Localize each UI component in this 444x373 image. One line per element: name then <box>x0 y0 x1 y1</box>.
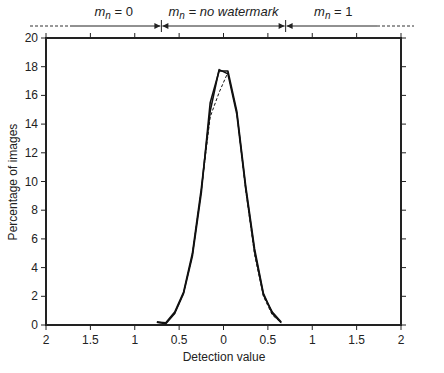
y-axis-title: Percentage of images <box>6 124 20 241</box>
y-tick-label: 8 <box>31 203 38 217</box>
x-tick-label: 1 <box>131 333 138 347</box>
y-tick-label: 18 <box>25 60 39 74</box>
x-tick-label: 0.5 <box>171 333 188 347</box>
y-tick-label: 0 <box>31 318 38 332</box>
region-label: mn = no watermark <box>169 4 280 21</box>
region-annotations: mn = 0mn = no watermarkmn = 1 <box>30 4 414 32</box>
arrowhead-icon <box>154 23 160 29</box>
x-axis-title: Detection value <box>183 350 266 364</box>
y-axis: 02468101214161820 <box>25 31 406 332</box>
region-label: mn = 1 <box>314 4 352 21</box>
y-tick-label: 14 <box>25 117 39 131</box>
arrowhead-icon <box>162 23 168 29</box>
x-tick-label: 2 <box>398 333 405 347</box>
plot-border <box>46 38 401 325</box>
arrowhead-icon <box>279 23 285 29</box>
arrowhead-icon <box>287 23 293 29</box>
solid-series-line <box>157 70 281 323</box>
y-tick-label: 20 <box>25 31 39 45</box>
y-tick-label: 6 <box>31 232 38 246</box>
plot-frame <box>46 38 401 325</box>
x-tick-label: 0.5 <box>260 333 277 347</box>
x-tick-label: 1.5 <box>82 333 99 347</box>
x-tick-label: 2 <box>43 333 50 347</box>
y-tick-label: 16 <box>25 88 39 102</box>
x-tick-label: 1 <box>309 333 316 347</box>
y-tick-label: 4 <box>31 261 38 275</box>
y-tick-label: 10 <box>25 175 39 189</box>
x-axis: 21.510.500.511.52 <box>43 33 405 347</box>
region-label: mn = 0 <box>94 4 132 21</box>
y-tick-label: 2 <box>31 289 38 303</box>
solid-series-line <box>157 71 281 324</box>
x-tick-label: 0 <box>220 333 227 347</box>
y-tick-label: 12 <box>25 146 39 160</box>
data-series <box>157 70 281 324</box>
x-tick-label: 1.5 <box>348 333 365 347</box>
detection-histogram-chart: mn = 0mn = no watermarkmn = 1 21.510.500… <box>0 0 444 373</box>
